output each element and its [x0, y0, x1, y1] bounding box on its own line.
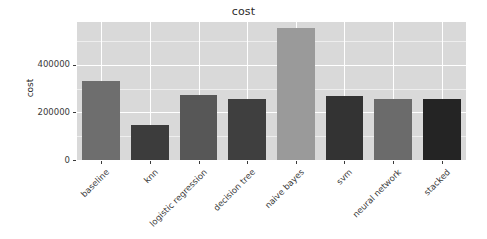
x-axis-tick-mark	[344, 161, 345, 164]
bar-naive-bayes[interactable]	[277, 28, 315, 160]
x-axis-tick-mark	[393, 161, 394, 164]
bar-knn[interactable]	[131, 125, 169, 160]
y-axis-tick-label: 0	[65, 155, 70, 165]
bar-neural-network[interactable]	[374, 99, 412, 160]
x-axis-tick-label-stacked: stacked	[303, 167, 451, 239]
x-axis-tick-mark	[150, 161, 151, 164]
gridline-minor	[77, 41, 466, 42]
x-axis-tick-mark	[199, 161, 200, 164]
y-axis-tick-mark	[73, 160, 76, 161]
y-axis-tick-label: 200000	[38, 107, 70, 117]
y-axis-tick-label: 400000	[38, 59, 70, 69]
bar-logistic-regression[interactable]	[180, 95, 218, 160]
plot-panel	[77, 22, 466, 160]
gridline-major	[77, 65, 466, 66]
gridline-minor	[77, 89, 466, 90]
x-axis-tick-mark	[442, 161, 443, 164]
x-axis-tick-mark	[296, 161, 297, 164]
y-axis-title: cost	[25, 68, 35, 108]
bar-decision-tree[interactable]	[228, 99, 266, 160]
bar-stacked[interactable]	[423, 99, 461, 160]
x-axis-tick-label-knn: knn	[11, 167, 159, 239]
bar-svm[interactable]	[326, 96, 364, 161]
bar-baseline[interactable]	[82, 81, 120, 160]
x-axis-tick-label-svm: svm	[206, 167, 354, 239]
y-axis-tick-mark	[73, 112, 76, 113]
chart-container: cost cost 0200000400000 baselineknnlogis…	[0, 0, 487, 239]
x-axis-tick-mark	[247, 161, 248, 164]
x-axis-tick-label-logistic-regression: logistic regression	[60, 167, 208, 239]
chart-title: cost	[0, 5, 487, 18]
x-axis-tick-mark	[101, 161, 102, 164]
y-axis-tick-mark	[73, 65, 76, 66]
